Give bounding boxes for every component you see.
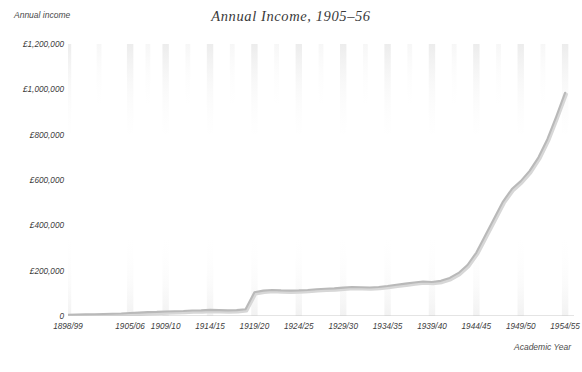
grid-band [251, 44, 257, 134]
x-tick-label: 1939/40 [417, 322, 447, 331]
grid-band-lower [251, 240, 257, 316]
grid-band-minor [97, 44, 102, 104]
grid-band [207, 44, 213, 134]
y-tick-label: £1,200,000 [0, 40, 64, 49]
grid-band-lower [296, 240, 302, 316]
grid-band-minor [274, 44, 279, 104]
x-tick-label: 1914/15 [195, 322, 225, 331]
grid-band-minor [145, 44, 150, 104]
y-tick-label: £800,000 [0, 130, 64, 139]
x-tick-label: 1934/35 [373, 322, 403, 331]
grid-band [562, 44, 568, 134]
x-tick-label: 1944/45 [462, 322, 492, 331]
x-tick-label: 1919/20 [240, 322, 270, 331]
y-tick-label: £1,000,000 [0, 85, 64, 94]
grid-band [68, 44, 71, 134]
grid-band-minor [407, 44, 412, 104]
grid-band-minor [363, 44, 368, 104]
grid-band-lower [429, 240, 435, 316]
grid-band [296, 44, 302, 134]
grid-band-minor [230, 44, 235, 104]
x-tick-label: 1924/25 [284, 322, 314, 331]
y-tick-label: £400,000 [0, 221, 64, 230]
y-tick-label: £200,000 [0, 266, 64, 275]
x-tick-label: 1949/50 [506, 322, 536, 331]
grid-band [518, 44, 524, 134]
grid-band-lower [207, 240, 213, 316]
y-axis-tick-labels: £1,200,000£1,000,000£800,000£600,000£400… [0, 0, 64, 372]
grid-band [162, 44, 168, 134]
y-tick-label: £600,000 [0, 176, 64, 185]
grid-band-lower [127, 240, 133, 316]
x-tick-label: 1905/06 [115, 322, 145, 331]
grid-band [384, 44, 390, 134]
grid-band-lower [340, 240, 346, 316]
grid-band-minor [185, 44, 190, 104]
grid-band-lower [562, 240, 568, 316]
chart-container: Annual Income, 1905–56 Annual income Aca… [0, 0, 582, 372]
x-tick-label: 1898/99 [53, 322, 83, 331]
y-tick-label: 0 [0, 312, 64, 321]
grid-band-minor [496, 44, 501, 104]
grid-band-minor [452, 44, 457, 104]
income-line [68, 93, 565, 315]
grid-band-lower [68, 240, 71, 316]
grid-band-lower [518, 240, 524, 316]
grid-band-minor [541, 44, 546, 104]
x-tick-label: 1909/10 [151, 322, 181, 331]
income-line-shadow [69, 94, 566, 316]
grid-band-minor [319, 44, 324, 104]
grid-band-lower [162, 240, 168, 316]
x-axis-title: Academic Year [514, 342, 571, 352]
income-line-chart [68, 44, 574, 316]
x-tick-label: 1954/55 [550, 322, 580, 331]
grid-band [340, 44, 346, 134]
chart-title: Annual Income, 1905–56 [0, 8, 582, 25]
grid-bands-lower [68, 240, 568, 316]
grid-band-lower [384, 240, 390, 316]
grid-band [429, 44, 435, 134]
plot-area [68, 44, 574, 316]
x-tick-label: 1929/30 [328, 322, 358, 331]
grid-band [127, 44, 133, 134]
grid-bands [68, 44, 568, 134]
grid-band [473, 44, 479, 134]
